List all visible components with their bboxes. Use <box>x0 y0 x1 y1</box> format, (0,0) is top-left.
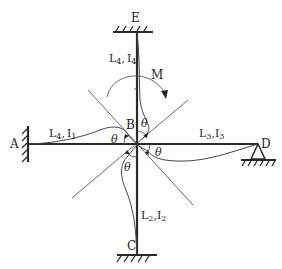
label-node-e: E <box>131 11 140 25</box>
theta-arc-top <box>137 131 146 135</box>
svg-text:L3,I3: L3,I3 <box>199 127 224 141</box>
fixed-support-e <box>113 26 153 32</box>
svg-text:L4,I4: L4,I4 <box>109 52 136 66</box>
label-member-bd: L3,I3 <box>199 127 224 141</box>
theta-label-right: θ <box>155 146 162 159</box>
label-moment: M <box>151 68 163 82</box>
deflected-shape-ab <box>29 127 136 144</box>
fixed-support-c <box>117 255 157 262</box>
frame-diagram: E A B D C M L4,I4 L4,I1 L3,I3 L2,I2 θ θ … <box>0 0 282 269</box>
label-node-c: C <box>127 239 136 253</box>
label-member-ab: L4,I1 <box>49 127 76 141</box>
svg-text:L2,I2: L2,I2 <box>141 209 166 223</box>
svg-text:L4,I1: L4,I1 <box>49 127 76 141</box>
label-node-b: B <box>126 118 135 132</box>
theta-label-bottom: θ <box>124 161 131 174</box>
theta-label-top: θ <box>141 117 148 130</box>
theta-label-left: θ <box>111 133 118 146</box>
label-member-be: L4,I4 <box>109 52 136 66</box>
rotated-tangent-line-2 <box>72 100 188 198</box>
label-node-d: D <box>261 137 271 151</box>
label-member-bc: L2,I2 <box>141 209 166 223</box>
label-node-a: A <box>9 137 19 151</box>
moment-arrowhead-icon <box>161 90 168 99</box>
fixed-support-a <box>22 126 28 162</box>
